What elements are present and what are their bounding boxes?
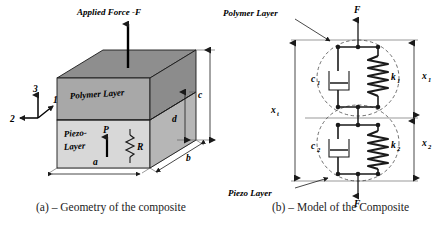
dimension-a-label: a <box>93 157 98 167</box>
dimension-c-label: c <box>198 90 203 100</box>
spring-2-label: k <box>391 140 396 150</box>
axis-1-label: 1 <box>53 95 58 105</box>
dimension-b-label: b <box>186 153 191 163</box>
panel-b-model: F <box>223 5 432 214</box>
damper-1 <box>329 47 349 107</box>
panel-b-caption: (b) – Model of the Composite <box>272 201 409 214</box>
spring-1-label: k <box>391 72 396 82</box>
coupling-node-top <box>356 105 361 110</box>
damper-1-label: c <box>311 74 316 84</box>
element-2-piezo: c 2 k 2 <box>311 123 401 177</box>
dimension-c: c <box>196 50 215 140</box>
spring-1 <box>368 47 388 107</box>
damper-1-subscript: 1 <box>317 79 320 86</box>
composite-figure: Applied Force -F Polymer Layer Piezo- La… <box>0 0 445 228</box>
dimension-d-label: d <box>172 114 177 124</box>
piezo-layer-label-line1: Piezo- <box>63 127 87 139</box>
damper-2 <box>329 125 349 174</box>
panel-a-geometry: Applied Force -F Polymer Layer Piezo- La… <box>9 7 215 214</box>
spring-2-subscript: 2 <box>396 145 401 152</box>
spring-2 <box>368 125 388 174</box>
resistor-label: R <box>136 142 143 152</box>
applied-force-label: Applied Force -F <box>76 7 141 17</box>
dimension-xt-label: x <box>270 105 276 115</box>
axis-3-label: 3 <box>32 84 38 94</box>
polymer-layer-callout-leader <box>295 19 330 41</box>
axis-2-label: 2 <box>9 114 15 124</box>
dimension-x1-subscript: 1 <box>428 76 431 83</box>
polymer-layer-callout-label: Polymer Layer <box>223 8 278 18</box>
piezo-layer-callout-label: Piezo Layer <box>228 188 272 198</box>
polarization-label: P <box>103 125 109 135</box>
dimension-x1: x 1 <box>414 43 431 115</box>
dimension-xt: x t <box>270 43 295 178</box>
dimension-x2-label: x <box>421 138 427 148</box>
dimension-x1-label: x <box>421 71 427 81</box>
element-1-polymer: c 1 k 1 <box>311 40 400 109</box>
piezo-layer-callout-leader <box>295 178 328 188</box>
figure-canvas: Applied Force -F Polymer Layer Piezo- La… <box>0 0 445 228</box>
dimension-xt-subscript: t <box>277 110 279 117</box>
damper-2-subscript: 2 <box>316 146 321 153</box>
piezo-layer-label-line2: Layer <box>62 140 86 152</box>
force-top-label: F <box>353 5 361 15</box>
coordinate-axes: 3 2 1 <box>9 84 58 124</box>
axis-1-arrow <box>38 106 53 118</box>
damper-2-label: c <box>311 141 316 151</box>
spring-1-subscript: 1 <box>397 77 400 84</box>
dimension-x2-subscript: 2 <box>427 143 432 150</box>
panel-a-caption: (a) – Geometry of the composite <box>36 201 186 214</box>
dimension-x2: x 2 <box>414 121 432 178</box>
